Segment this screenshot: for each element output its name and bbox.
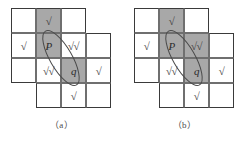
grid-cell xyxy=(86,58,111,83)
grid-cell xyxy=(159,83,184,108)
grid-cell xyxy=(36,58,61,83)
grid-cell xyxy=(159,33,184,58)
grid-cell xyxy=(61,83,86,108)
grid-cell xyxy=(209,33,234,58)
figure-b: √√P√√√√q√√ （b） xyxy=(123,0,246,142)
figure-a: √√P√√√√q√√ （a） xyxy=(0,0,123,142)
grid-cell xyxy=(61,8,86,33)
grid-cell xyxy=(159,58,184,83)
grid-cell xyxy=(61,58,86,83)
grid-cell xyxy=(86,33,111,58)
grid-cell xyxy=(209,58,234,83)
grid-cell xyxy=(86,83,111,108)
grid-cell xyxy=(61,33,86,58)
grid-cell xyxy=(184,8,209,33)
figure-pair-container: √√P√√√√q√√ （a） √√P√√√√q√√ （b） xyxy=(0,0,246,142)
grid-cell xyxy=(36,33,61,58)
caption-a: （a） xyxy=(0,118,123,131)
caption-b: （b） xyxy=(123,118,246,131)
grid-cell xyxy=(36,8,61,33)
grid-cell xyxy=(209,83,234,108)
grid-cell xyxy=(134,58,159,83)
grid-cell xyxy=(134,33,159,58)
grid-cell xyxy=(134,8,159,33)
grid-cell xyxy=(11,8,36,33)
grid-board-b: √√P√√√√q√√ xyxy=(134,8,236,110)
grid-board-a: √√P√√√√q√√ xyxy=(11,8,113,110)
grid-cell xyxy=(184,58,209,83)
grid-cell xyxy=(159,8,184,33)
grid-cell xyxy=(184,83,209,108)
grid-cell xyxy=(11,58,36,83)
grid-cell xyxy=(184,33,209,58)
grid-cell xyxy=(36,83,61,108)
grid-cell xyxy=(11,33,36,58)
